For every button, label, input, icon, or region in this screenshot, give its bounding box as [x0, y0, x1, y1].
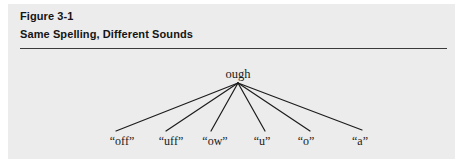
tree-leaf-label-3: “ow” [202, 135, 227, 148]
tree-leaf-label-2: “uff” [159, 135, 183, 148]
tree-leaf-label-6: “a” [352, 135, 368, 148]
tree-leaf-label-4: “u” [254, 135, 271, 148]
tree-branches-svg [0, 0, 473, 165]
branch-line-5 [238, 83, 310, 131]
tree-leaf-label-5: “o” [298, 135, 315, 148]
tree-leaf-label-1: “off” [110, 135, 134, 148]
branch-line-6 [238, 83, 362, 130]
figure-container: Figure 3-1 Same Spelling, Different Soun… [0, 0, 473, 165]
tree-diagram: ough“off”“uff”“ow”“u”“o”“a” [0, 0, 473, 165]
branch-line-group [116, 83, 362, 131]
tree-root-label: ough [226, 68, 251, 81]
branch-line-3 [211, 83, 238, 131]
branch-line-4 [238, 83, 265, 131]
